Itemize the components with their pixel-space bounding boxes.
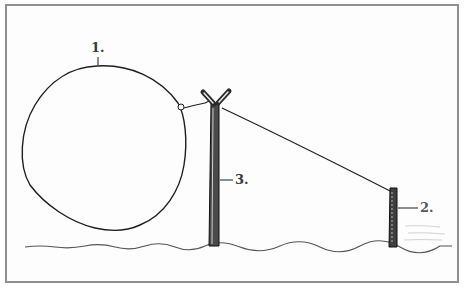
- ground-line: [25, 241, 452, 253]
- label-short-post: 2.: [420, 200, 434, 215]
- tall-pole: [203, 91, 229, 246]
- sketch-canvas: [0, 0, 464, 289]
- short-post: [389, 188, 397, 247]
- label-tall-pole: 3.: [235, 172, 249, 187]
- tether-knot: [178, 104, 184, 110]
- water-ripples: [404, 226, 445, 240]
- label-balloon: 1.: [91, 40, 105, 55]
- balloon-outline: [22, 66, 186, 230]
